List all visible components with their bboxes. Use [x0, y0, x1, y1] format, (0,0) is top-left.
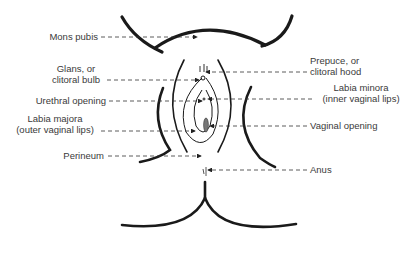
label-text: clitoral bulb: [46, 74, 106, 85]
buttocks-outline: [122, 182, 296, 227]
label-text: clitoral hood: [310, 66, 361, 77]
mons-outline: [122, 16, 292, 52]
anatomy-diagram: Mons pubis Glans, or clitoral bulb Ureth…: [0, 0, 416, 253]
label-text: Mons pubis: [49, 31, 98, 42]
label-labia-majora: Labia majora (outer vaginal lips): [10, 113, 100, 135]
label-text: Vaginal opening: [310, 120, 377, 131]
label-text: Perineum: [63, 150, 104, 161]
label-glans: Glans, or clitoral bulb: [46, 63, 106, 85]
labia-majora-outline: [140, 60, 275, 167]
label-text: Anus: [310, 164, 332, 175]
vaginal-opening-shape: [204, 118, 209, 132]
label-text: Labia majora: [10, 113, 100, 124]
label-anus: Anus: [310, 164, 332, 175]
label-labia-minora: Labia minora (inner vaginal lips): [312, 82, 410, 104]
leader-lines-left: [101, 37, 202, 156]
label-text: Prepuce, or: [310, 55, 361, 66]
label-text: Glans, or: [46, 63, 106, 74]
label-vaginal-opening: Vaginal opening: [310, 120, 377, 131]
label-prepuce: Prepuce, or clitoral hood: [310, 55, 361, 77]
label-mons-pubis: Mons pubis: [20, 31, 98, 42]
label-text: Labia minora: [312, 82, 410, 93]
label-perineum: Perineum: [40, 150, 104, 161]
anus-mark: [203, 167, 206, 176]
label-text: Urethral opening: [36, 95, 106, 106]
label-text: (outer vaginal lips): [10, 124, 100, 135]
label-urethral-opening: Urethral opening: [20, 95, 106, 106]
label-text: (inner vaginal lips): [312, 93, 410, 104]
